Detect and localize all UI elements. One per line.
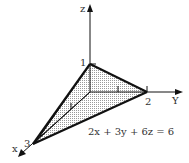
z-intercept-label: 1 bbox=[80, 57, 86, 68]
x-axis-label: x bbox=[12, 143, 18, 154]
y-axis-label: Y bbox=[171, 95, 179, 106]
z-axis-label: z bbox=[80, 3, 85, 14]
plane-diagram: z 1 2 Y 3 x 2x + 3y + 6z = 6 bbox=[0, 0, 189, 163]
z-axis-arrow-icon bbox=[87, 4, 93, 12]
plane-equation: 2x + 3y + 6z = 6 bbox=[88, 126, 174, 137]
y-intercept-label: 2 bbox=[145, 96, 151, 107]
x-intercept-label: 3 bbox=[24, 138, 30, 149]
